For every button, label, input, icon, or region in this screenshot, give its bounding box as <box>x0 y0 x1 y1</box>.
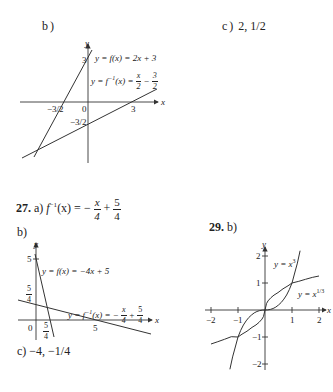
p29-axis-x-label: x <box>327 306 331 315</box>
p29-tick-y-neg1: −1 <box>252 333 262 342</box>
p29-tick-x-neg1: −1 <box>233 316 243 325</box>
p29-axis-y-label: y <box>262 240 266 249</box>
p29-curve1-label: y = x3 <box>274 258 296 269</box>
p29-tick-y-1: 1 <box>256 279 261 288</box>
p29-curve2-label: y = x1/3 <box>298 288 324 299</box>
p29-tick-x-2: 2 <box>317 316 322 325</box>
p29-graph <box>0 0 333 392</box>
p29-tick-x-neg2: −2 <box>206 316 216 325</box>
p29-tick-x-1: 1 <box>290 316 295 325</box>
p29-tick-y-neg2: −2 <box>252 360 262 369</box>
p29-tick-y-2: 2 <box>256 252 261 261</box>
